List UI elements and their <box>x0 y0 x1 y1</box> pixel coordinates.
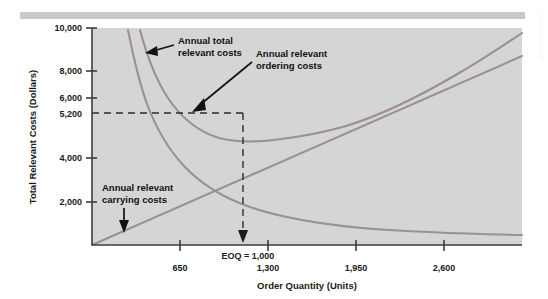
y-tick-label-4000: 4,000 <box>59 153 82 163</box>
y-axis-title: Total Relevant Costs (Dollars) <box>27 70 38 204</box>
eoq-cost-chart-figure: 10,000 8,000 6,000 5,200 4,000 2,000 650… <box>0 0 548 299</box>
eoq-value-label: EOQ = 1,000 <box>222 251 275 261</box>
y-tick-label-6000: 6,000 <box>59 93 82 103</box>
annotation-carrying-line2: carrying costs <box>102 194 167 205</box>
x-tick-label-1950: 1,950 <box>345 263 368 273</box>
annotation-total-line2: relevant costs <box>178 47 242 58</box>
annotation-ordering-line2: ordering costs <box>256 60 322 71</box>
annotation-total-line1: Annual total <box>178 35 233 46</box>
y-tick-label-2000: 2,000 <box>59 197 82 207</box>
annotation-ordering-line1: Annual relevant <box>256 48 328 59</box>
x-tick-label-1300: 1,300 <box>257 263 280 273</box>
x-axis-title: Order Quantity (Units) <box>257 280 357 291</box>
y-tick-label-10000: 10,000 <box>54 23 82 33</box>
x-tick-label-650: 650 <box>172 263 187 273</box>
y-tick-label-5200: 5,200 <box>59 109 82 119</box>
chart-svg: 10,000 8,000 6,000 5,200 4,000 2,000 650… <box>0 0 548 299</box>
annotation-carrying-line1: Annual relevant <box>102 182 174 193</box>
y-tick-label-8000: 8,000 <box>59 66 82 76</box>
x-tick-label-2600: 2,600 <box>433 263 456 273</box>
